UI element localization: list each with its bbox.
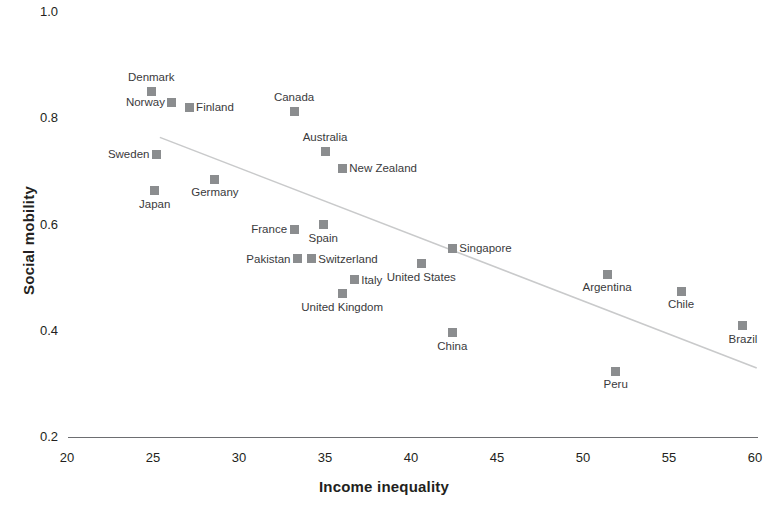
data-point[interactable] xyxy=(338,289,347,298)
point-label: Brazil xyxy=(729,333,758,345)
data-point[interactable] xyxy=(319,220,328,229)
point-label: Peru xyxy=(604,378,628,390)
point-label: Singapore xyxy=(459,242,511,254)
data-point[interactable] xyxy=(338,164,347,173)
point-label: Sweden xyxy=(108,148,150,160)
data-point[interactable] xyxy=(350,275,359,284)
point-label: Norway xyxy=(126,96,165,108)
point-label: China xyxy=(437,340,467,352)
point-label: United Kingdom xyxy=(301,301,383,313)
data-point[interactable] xyxy=(603,270,612,279)
point-label: France xyxy=(251,223,287,235)
data-point[interactable] xyxy=(150,186,159,195)
data-point[interactable] xyxy=(738,321,747,330)
data-point[interactable] xyxy=(152,150,161,159)
data-point[interactable] xyxy=(448,328,457,337)
point-label: Switzerland xyxy=(318,253,377,265)
point-label: Pakistan xyxy=(246,253,290,265)
data-point[interactable] xyxy=(677,287,686,296)
data-point[interactable] xyxy=(417,259,426,268)
data-point[interactable] xyxy=(147,87,156,96)
scatter-chart: Social mobility Income inequality 0.20.4… xyxy=(0,0,768,505)
point-label: Argentina xyxy=(582,281,631,293)
data-point[interactable] xyxy=(185,103,194,112)
data-point[interactable] xyxy=(293,254,302,263)
point-label: Chile xyxy=(668,298,694,310)
point-label: Canada xyxy=(274,91,314,103)
point-label: Italy xyxy=(361,274,382,286)
point-label: Denmark xyxy=(128,71,175,83)
point-label: Germany xyxy=(191,186,238,198)
data-point[interactable] xyxy=(448,244,457,253)
data-point[interactable] xyxy=(290,107,299,116)
plot-area: DenmarkNorwayFinlandCanadaSwedenAustrali… xyxy=(0,0,768,505)
data-point[interactable] xyxy=(307,254,316,263)
point-label: Australia xyxy=(303,131,348,143)
point-label: Spain xyxy=(309,232,338,244)
point-label: United States xyxy=(387,271,456,283)
data-point[interactable] xyxy=(167,98,176,107)
data-point[interactable] xyxy=(210,175,219,184)
data-point[interactable] xyxy=(290,225,299,234)
point-label: Finland xyxy=(196,101,234,113)
point-label: Japan xyxy=(139,198,170,210)
data-point[interactable] xyxy=(321,147,330,156)
point-label: New Zealand xyxy=(349,162,417,174)
data-point[interactable] xyxy=(611,367,620,376)
